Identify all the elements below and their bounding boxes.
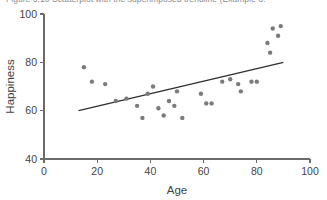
y-tick-label: 100 [19,8,37,20]
figure-container: Figure 6.10 Scatterplot with the superim… [0,0,327,200]
data-point [249,79,253,83]
data-point [236,82,240,86]
chart-canvas: 406080100 020406080100 AgeHappiness [0,0,327,200]
data-point [82,65,86,69]
data-point [220,79,224,83]
data-point [209,101,213,105]
x-axis-title: Age [167,184,187,196]
data-point [268,50,272,54]
x-tick-label: 20 [91,165,103,177]
data-point [103,82,107,86]
scatter-plot: 406080100 020406080100 AgeHappiness [0,0,327,200]
data-point [279,24,283,28]
data-point [228,77,232,81]
data-point [151,84,155,88]
data-point [175,89,179,93]
x-axis: 020406080100 [41,159,319,177]
data-point [265,41,269,45]
data-point [204,101,208,105]
trendline-segment [79,62,284,110]
data-point [172,104,176,108]
x-tick-label: 100 [301,165,319,177]
y-axis-title: Happiness [4,59,16,114]
data-point [167,99,171,103]
data-point [156,106,160,110]
data-point [90,79,94,83]
data-point [162,113,166,117]
x-tick-label: 60 [198,165,210,177]
x-tick-label: 80 [251,165,263,177]
data-point [114,99,118,103]
y-tick-label: 60 [25,104,37,116]
data-point [276,34,280,38]
y-tick-label: 40 [25,153,37,165]
data-point [146,92,150,96]
x-tick-label: 40 [145,165,157,177]
data-point [271,26,275,30]
y-tick-label: 80 [25,56,37,68]
data-point [199,92,203,96]
data-point [135,104,139,108]
data-point [239,89,243,93]
data-point [180,116,184,120]
trendline [79,62,284,110]
x-tick-label: 0 [41,165,47,177]
data-point [255,79,259,83]
data-points [82,24,283,120]
data-point [140,116,144,120]
y-axis: 406080100 [19,8,44,165]
data-point [124,96,128,100]
